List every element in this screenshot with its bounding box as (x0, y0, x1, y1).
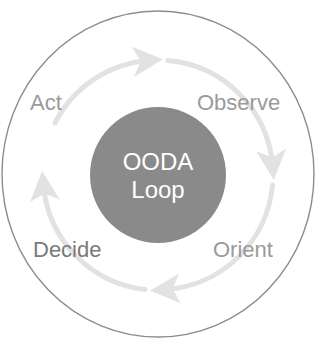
stage-label-act: Act (30, 90, 62, 115)
stage-label-decide: Decide (33, 237, 101, 262)
stage-label-observe: Observe (197, 90, 280, 115)
stage-label-orient: Orient (213, 237, 273, 262)
ooda-loop-diagram: OODA Loop Act Observe Decide Orient (0, 0, 328, 355)
center-title-line2: Loop (131, 176, 184, 203)
center-title-line1: OODA (123, 148, 194, 175)
center-circle (90, 107, 226, 243)
